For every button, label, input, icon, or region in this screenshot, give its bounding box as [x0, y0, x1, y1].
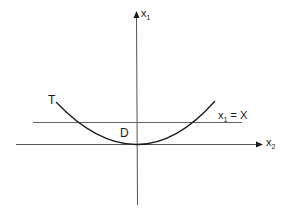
x1-axis	[137, 16, 138, 205]
x1-axis-arrow-icon	[134, 11, 140, 18]
level-line-label: x1 = X	[218, 109, 248, 123]
x1-axis-label: x1	[141, 7, 151, 21]
x2-axis-label: x2	[266, 136, 276, 150]
x2-axis-arrow-icon	[256, 142, 263, 148]
diagram-canvas: x1 x2 T D x1 = X	[0, 0, 291, 217]
region-label-D: D	[120, 126, 129, 140]
curve-label-T: T	[48, 93, 56, 107]
